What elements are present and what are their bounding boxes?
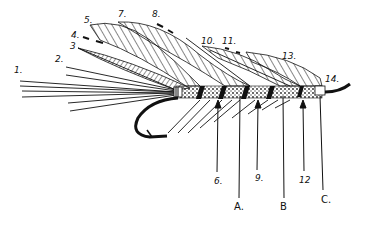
- label-9: 9.: [255, 174, 264, 183]
- label-7: 7.: [118, 10, 127, 19]
- label-C: C.: [321, 195, 331, 205]
- hackle-fibres: [168, 100, 290, 133]
- fly-body: [174, 84, 350, 99]
- label-6: 6.: [214, 177, 223, 186]
- fly-diagram: [0, 0, 372, 226]
- label-4: 4.: [71, 31, 80, 40]
- label-8: 8.: [152, 10, 161, 19]
- label-10: 10.: [201, 37, 215, 46]
- label-A: A.: [234, 202, 244, 212]
- label-5: 5.: [84, 16, 93, 25]
- label-B: B: [280, 202, 287, 212]
- hook-eye: [325, 84, 350, 92]
- label-1: 1.: [14, 66, 23, 75]
- label-12: 12: [299, 176, 310, 185]
- label-14: 14.: [325, 75, 339, 84]
- label-11: 11.: [222, 37, 236, 46]
- label-13: 13.: [282, 52, 296, 61]
- hook: [136, 98, 178, 137]
- label-3: 3: [70, 42, 76, 51]
- label-2: 2.: [55, 55, 64, 64]
